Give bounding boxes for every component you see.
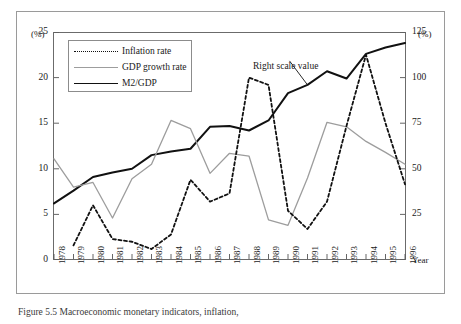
x-tick-label-1992: 1992 (331, 246, 340, 264)
x-tick-label-1984: 1984 (175, 246, 184, 264)
x-tick-label-1989: 1989 (272, 246, 281, 264)
right-tick-label-75: 75 (412, 118, 422, 128)
chart-annotation-right-scale-value: Right scale value (253, 62, 318, 72)
legend-key-m2-gdp-icon (74, 83, 118, 86)
right-tick-label-25: 25 (412, 209, 422, 219)
legend-label-inflation: Inflation rate (122, 45, 171, 58)
x-tick-label-1991: 1991 (311, 246, 320, 264)
x-tick-label-1983: 1983 (155, 246, 164, 264)
left-tick-label-0: 0 (24, 255, 48, 265)
left-tick-label-15: 15 (24, 118, 48, 128)
left-tick-label-10: 10 (24, 164, 48, 174)
chart-legend: Inflation rate GDP growth rate M2/GDP (68, 40, 192, 92)
legend-label-gdp-growth: GDP growth rate (122, 61, 187, 74)
x-tick-label-1979: 1979 (77, 246, 86, 264)
x-tick-label-1990: 1990 (292, 246, 301, 264)
right-tick-label-125: 125 (412, 27, 426, 37)
figure-caption: Figure 5.5 Macroeconomic monetary indica… (18, 308, 239, 318)
legend-item-inflation: Inflation rate (74, 44, 188, 59)
x-tick-label-1978: 1978 (58, 246, 67, 264)
right-tick-label-50: 50 (412, 164, 422, 174)
right-tick-label-100: 100 (412, 73, 426, 83)
left-tick-label-20: 20 (24, 73, 48, 83)
legend-key-inflation-icon (74, 51, 118, 54)
x-tick-label-1986: 1986 (214, 246, 223, 264)
legend-key-gdp-growth-icon (74, 67, 118, 70)
legend-label-m2-gdp: M2/GDP (122, 77, 157, 90)
figure-container: (%) (%) 0510152025 255075100125 19781979… (0, 0, 461, 324)
left-tick-label-5: 5 (24, 209, 48, 219)
legend-item-gdp-growth: GDP growth rate (74, 60, 188, 75)
left-tick-label-25: 25 (24, 27, 48, 37)
x-axis-title: Year (412, 256, 429, 265)
x-tick-label-1994: 1994 (370, 246, 379, 264)
x-tick-label-1988: 1988 (253, 246, 262, 264)
x-tick-label-1985: 1985 (194, 246, 203, 264)
legend-item-m2-gdp: M2/GDP (74, 76, 188, 91)
x-tick-label-1980: 1980 (97, 246, 106, 264)
x-tick-label-1993: 1993 (350, 246, 359, 264)
x-tick-label-1995: 1995 (389, 246, 398, 264)
x-tick-label-1987: 1987 (233, 246, 242, 264)
x-tick-label-1981: 1981 (116, 246, 125, 264)
x-tick-label-1982: 1982 (136, 246, 145, 264)
